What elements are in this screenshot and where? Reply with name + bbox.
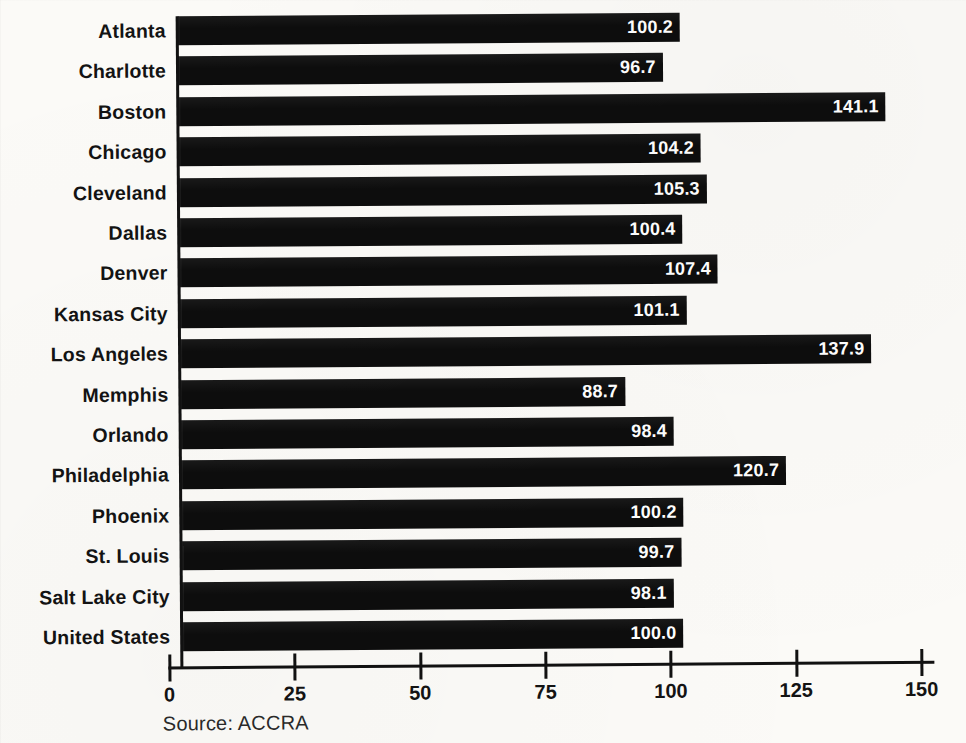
bar-row: St. Louis99.7: [1, 536, 966, 572]
bar-row: Orlando98.4: [1, 415, 966, 451]
bar-row: Atlanta100.2: [0, 11, 964, 47]
category-label: Los Angeles: [0, 340, 168, 372]
category-label: Kansas City: [0, 299, 168, 331]
bar-row: Los Angeles137.9: [0, 334, 966, 370]
category-label: Orlando: [0, 420, 169, 452]
cost-of-living-bar-chart: Atlanta100.2Charlotte96.7Boston141.1Chic…: [0, 0, 966, 743]
category-label: Atlanta: [0, 16, 166, 48]
bar-value-label: 100.2: [630, 501, 683, 522]
bar-row: Cleveland105.3: [0, 172, 965, 208]
bar: 98.1: [182, 578, 674, 611]
bar-value-label: 100.2: [627, 17, 680, 38]
bar: 100.0: [182, 619, 684, 652]
x-axis-tick: [670, 651, 673, 678]
category-label: Salt Lake City: [0, 582, 170, 614]
bar-value-label: 107.4: [665, 259, 718, 280]
bar-row: Boston141.1: [0, 91, 964, 127]
bar-value-label: 137.9: [818, 338, 871, 359]
category-label: United States: [0, 622, 170, 654]
bar-value-label: 101.1: [634, 299, 687, 320]
bar: 107.4: [179, 255, 718, 288]
bar-row: Phoenix100.2: [1, 495, 966, 531]
bar: 101.1: [180, 295, 687, 328]
bar-row: United States100.0: [2, 617, 966, 653]
category-label: Chicago: [0, 138, 167, 170]
bar: 100.2: [181, 497, 684, 530]
bar-row: Salt Lake City98.1: [2, 576, 966, 612]
category-label: Phoenix: [0, 501, 169, 533]
plot-area: Atlanta100.2Charlotte96.7Boston141.1Chic…: [0, 0, 966, 743]
bar: 100.2: [178, 13, 681, 46]
category-label: Dallas: [0, 218, 167, 250]
x-axis-ticks: 0255075100125150: [0, 0, 963, 4]
x-axis-tick-label: 25: [284, 682, 306, 705]
x-axis-tick: [168, 654, 171, 681]
bar-rows-container: Atlanta100.2Charlotte96.7Boston141.1Chic…: [0, 0, 963, 4]
category-label: Charlotte: [0, 57, 166, 89]
bar-row: Denver107.4: [0, 253, 966, 289]
x-axis-tick-label: 50: [409, 682, 431, 705]
bar-value-label: 99.7: [638, 542, 681, 563]
bar-value-label: 98.1: [631, 582, 674, 603]
category-label: Denver: [0, 259, 168, 291]
bar-value-label: 96.7: [620, 57, 663, 78]
category-label: Philadelphia: [0, 461, 169, 493]
bar: 137.9: [180, 334, 872, 368]
source-note: Source: ACCRA: [163, 711, 309, 735]
x-axis-tick: [544, 652, 547, 679]
bar-value-label: 141.1: [833, 96, 886, 117]
bar: 141.1: [178, 92, 886, 126]
bar: 104.2: [179, 134, 702, 167]
bar-row: Dallas100.4: [0, 213, 965, 249]
bar-row: Charlotte96.7: [0, 51, 964, 87]
bar-row: Chicago104.2: [0, 132, 965, 168]
x-axis-tick: [795, 650, 798, 677]
bar: 96.7: [178, 53, 663, 86]
bar-value-label: 98.4: [631, 421, 674, 442]
bar-value-label: 100.0: [630, 623, 683, 644]
bar: 98.4: [181, 417, 674, 450]
bar-row: Memphis88.7: [0, 374, 966, 410]
bar-value-label: 120.7: [733, 460, 786, 481]
bar-row: Kansas City101.1: [0, 293, 966, 329]
x-axis-line: [168, 661, 934, 670]
bar: 105.3: [179, 174, 707, 207]
bar: 99.7: [181, 538, 681, 571]
x-axis-tick: [419, 653, 422, 680]
bar-value-label: 100.4: [629, 219, 682, 240]
bar-value-label: 104.2: [648, 138, 701, 159]
category-label: St. Louis: [0, 542, 170, 574]
x-axis-tick-label: 100: [654, 680, 688, 703]
category-label: Memphis: [0, 380, 168, 412]
x-axis-tick-label: 75: [534, 681, 556, 704]
x-axis-tick-label: 0: [164, 683, 175, 706]
bar-row: Philadelphia120.7: [1, 455, 966, 491]
x-axis-tick: [920, 649, 923, 676]
x-axis-tick-label: 150: [905, 678, 939, 701]
x-axis-tick: [294, 653, 297, 680]
bar-value-label: 88.7: [582, 381, 625, 402]
bar-value-label: 105.3: [654, 178, 707, 199]
bar: 100.4: [179, 215, 683, 248]
x-axis-tick-label: 125: [779, 679, 813, 702]
category-label: Cleveland: [0, 178, 167, 210]
bar: 88.7: [180, 377, 625, 409]
category-label: Boston: [0, 97, 166, 129]
bar: 120.7: [181, 456, 786, 489]
